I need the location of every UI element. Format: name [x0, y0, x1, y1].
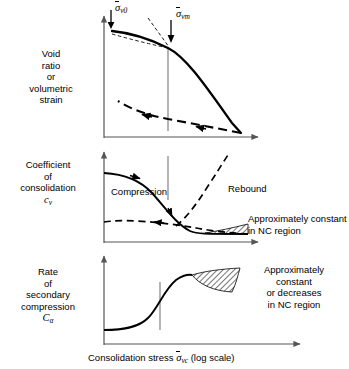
sigma-v0-arrow — [108, 10, 115, 29]
consolidation-figure: Void ratio or volumetric strain σv0 σvm … — [0, 0, 349, 369]
rebound-curve-1 — [118, 101, 241, 133]
panel-void-ratio-ylabel: Void ratio or volumetric strain — [12, 48, 90, 106]
cv-subscript: v — [49, 197, 52, 206]
sigma-glyph: σ — [115, 2, 120, 13]
x-axis-label-suffix: (log scale) — [188, 352, 234, 363]
x-axis-label-prefix: Consolidation stress — [88, 352, 176, 363]
rebound-label: Rebound — [228, 183, 267, 195]
ylabel-line-3: or — [12, 71, 90, 83]
note-line-3: or decreases — [244, 287, 344, 299]
note-line-1: Approximately — [244, 264, 344, 276]
ylabel-symbol: Cα — [6, 312, 90, 326]
panel-calpha-ylabel: Rate of secondary compression Cα — [6, 266, 90, 326]
cv-nc-hatched-wedge — [205, 224, 248, 234]
ylabel-line-3: consolidation — [6, 182, 90, 194]
calpha-nc-hatched-wedge — [192, 268, 240, 292]
cv-rebound-arrow — [154, 222, 164, 223]
note-line-4: in NC region — [244, 299, 344, 311]
sigma-v0-label: σv0 — [115, 2, 127, 16]
ylabel-symbol: cv — [6, 194, 90, 208]
compression-label: Compression — [111, 186, 167, 198]
virgin-compression-curve — [112, 31, 241, 133]
ylabel-line-2: of — [6, 278, 90, 290]
ylabel-line-3: secondary — [6, 289, 90, 301]
sigma-glyph: σ — [176, 352, 181, 363]
sigma-glyph: σ — [176, 8, 181, 19]
panel-cv-ylabel: Coefficient of consolidation cv — [6, 159, 90, 208]
ylabel-line-4: compression — [6, 301, 90, 313]
ylabel-line-2: ratio — [12, 60, 90, 72]
ylabel-line-5: strain — [12, 94, 90, 106]
x-axis-label: Consolidation stress σvc (log scale) — [88, 352, 235, 365]
sigma-v0-subscript: v0 — [120, 6, 127, 15]
ylabel-line-1: Void — [12, 48, 90, 60]
note-line-1: Approximately constant — [248, 213, 347, 225]
ylabel-line-1: Rate — [6, 266, 90, 278]
cv-nc-region-note: Approximately constant in NC region — [248, 213, 347, 236]
ylabel-line-4: volumetric — [12, 83, 90, 95]
calpha-nc-region-note: Approximately constant or decreases in N… — [244, 264, 344, 310]
ylabel-line-1: Coefficient — [6, 159, 90, 171]
note-line-2: constant — [244, 276, 344, 288]
cv-rebound-upper-dashed — [176, 155, 228, 226]
calpha-subscript: α — [50, 316, 54, 325]
ylabel-line-2: of — [6, 171, 90, 183]
sigma-vm-arrow — [168, 20, 175, 43]
sigma-vm-subscript: vm — [181, 12, 190, 21]
note-line-2: in NC region — [248, 225, 347, 237]
calpha-letter: C — [43, 312, 50, 323]
calpha-curve — [104, 275, 192, 330]
sigma-vm-label: σvm — [176, 8, 190, 22]
